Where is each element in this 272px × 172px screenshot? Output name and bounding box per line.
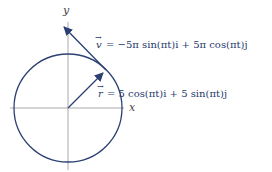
position-equation: = 5 cos(πt)i + 5 sin(πt)j	[107, 88, 227, 99]
velocity-equation: = −5π sin(πt)i + 5π cos(πt)j	[106, 39, 248, 50]
vector-arrow-icon: →	[95, 33, 102, 42]
circular-motion-diagram: y x v → = −5π sin(πt)i + 5π cos(πt)j r →…	[0, 0, 272, 172]
y-axis-label: y	[62, 4, 70, 17]
velocity-label: v → = −5π sin(πt)i + 5π cos(πt)j	[95, 33, 248, 50]
vector-arrow-icon: →	[97, 82, 104, 91]
x-axis-label: x	[129, 101, 136, 114]
